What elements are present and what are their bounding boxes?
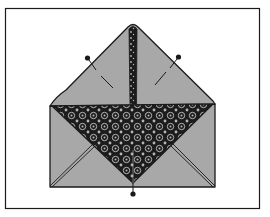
folded-fabric-illustration xyxy=(0,0,270,217)
patterned-center-strip xyxy=(129,27,137,105)
